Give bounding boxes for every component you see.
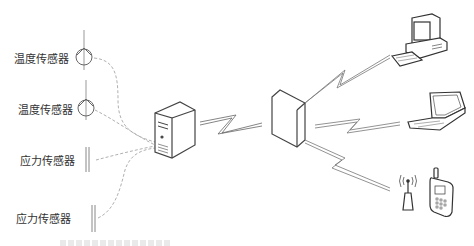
wireless-link-icon <box>315 119 400 133</box>
temperature-sensor-icon <box>76 30 92 70</box>
network-gateway-icon <box>272 90 305 147</box>
desktop-computer-icon <box>392 14 447 66</box>
mobile-phone-icon <box>430 168 453 217</box>
laptop-icon <box>408 92 465 130</box>
wireless-link-icon <box>305 55 390 103</box>
temperature-sensor-icon <box>78 80 94 120</box>
wireless-link-icon <box>305 140 390 191</box>
network-diagram <box>0 0 474 246</box>
stress-sensor-icon <box>86 147 89 172</box>
server-tower-icon <box>155 102 195 158</box>
stress-sensor-icon <box>92 205 95 232</box>
dashed-links <box>94 58 155 218</box>
wireless-link-icon <box>200 115 262 134</box>
antenna-icon <box>400 175 417 210</box>
caption-cutoff <box>60 240 170 246</box>
